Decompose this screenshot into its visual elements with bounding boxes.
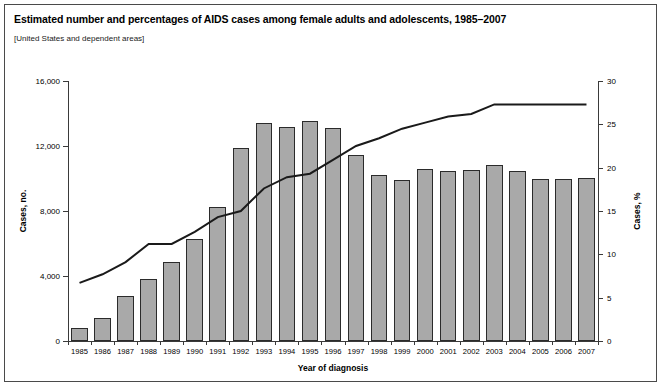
bar-1994: [279, 127, 296, 342]
y-tick-label-left: 4,000: [40, 272, 60, 281]
bar-2005: [532, 179, 549, 342]
x-tick: [391, 341, 392, 345]
x-tick-label-1997: 1997: [348, 347, 365, 356]
x-tick-label-2004: 2004: [509, 347, 526, 356]
x-tick-label-1990: 1990: [186, 347, 203, 356]
x-tick-label-2005: 2005: [532, 347, 549, 356]
x-tick: [229, 341, 230, 345]
x-tick: [68, 341, 69, 345]
x-tick: [598, 341, 599, 345]
figure-container: Estimated number and percentages of AIDS…: [0, 0, 661, 386]
y-tick-label-left: 12,000: [36, 142, 60, 151]
bar-1986: [94, 318, 111, 341]
y-tick-right: [598, 124, 603, 125]
bar-1985: [71, 328, 88, 341]
bar-2001: [440, 171, 457, 341]
y-tick-label-left: 0: [56, 337, 60, 346]
x-tick-label-2002: 2002: [463, 347, 480, 356]
y-tick-right: [598, 81, 603, 82]
y-tick-label-right: 30: [607, 77, 616, 86]
y-tick-label-right: 25: [607, 120, 616, 129]
x-tick: [183, 341, 184, 345]
x-tick: [506, 341, 507, 345]
x-tick-label-1986: 1986: [94, 347, 111, 356]
figure-subtitle: [United States and dependent areas]: [14, 34, 144, 43]
x-tick-label-1988: 1988: [140, 347, 157, 356]
x-tick-label-2001: 2001: [440, 347, 457, 356]
x-axis-line: [68, 341, 598, 342]
bar-1988: [140, 279, 157, 341]
x-tick: [137, 341, 138, 345]
y-tick-label-right: 0: [607, 337, 611, 346]
bar-2000: [417, 169, 434, 341]
x-tick-label-1995: 1995: [302, 347, 319, 356]
bar-1990: [186, 239, 203, 341]
x-tick-label-1987: 1987: [117, 347, 134, 356]
x-tick: [414, 341, 415, 345]
x-tick: [114, 341, 115, 345]
bar-1989: [163, 262, 180, 341]
bar-1997: [348, 155, 365, 341]
x-tick-label-1999: 1999: [394, 347, 411, 356]
bar-2002: [463, 170, 480, 341]
bar-1995: [302, 121, 319, 341]
y-axis-right-title: Cases, %: [630, 81, 644, 341]
bar-2007: [578, 178, 595, 341]
y-axis-left-title-text: Cases, no.: [18, 190, 28, 233]
bar-1987: [117, 296, 134, 341]
bar-2003: [486, 165, 503, 341]
bar-1996: [325, 128, 342, 341]
x-tick-label-1985: 1985: [71, 347, 88, 356]
y-axis-left-title: Cases, no.: [16, 81, 30, 341]
x-tick: [345, 341, 346, 345]
y-tick-label-left: 16,000: [36, 77, 60, 86]
x-tick-label-2003: 2003: [486, 347, 503, 356]
x-tick: [437, 341, 438, 345]
x-tick: [368, 341, 369, 345]
bar-2006: [555, 179, 572, 341]
x-tick-label-2007: 2007: [578, 347, 595, 356]
y-tick-label-right: 20: [607, 163, 616, 172]
x-tick: [483, 341, 484, 345]
bar-1999: [394, 180, 411, 341]
x-tick-label-1993: 1993: [255, 347, 272, 356]
x-tick-label-1989: 1989: [163, 347, 180, 356]
x-tick-label-1998: 1998: [371, 347, 388, 356]
x-tick: [275, 341, 276, 345]
x-tick: [206, 341, 207, 345]
bar-1993: [256, 123, 273, 341]
x-tick: [321, 341, 322, 345]
x-tick-label-1994: 1994: [278, 347, 295, 356]
x-tick: [529, 341, 530, 345]
bar-1998: [371, 175, 388, 341]
x-tick-label-1996: 1996: [325, 347, 342, 356]
y-tick-right: [598, 211, 603, 212]
x-tick: [298, 341, 299, 345]
plot-area: 04,0008,00012,00016,000 051015202530 198…: [68, 81, 598, 341]
page-title: Estimated number and percentages of AIDS…: [14, 13, 506, 25]
x-tick-label-2006: 2006: [555, 347, 572, 356]
y-tick-right: [598, 168, 603, 169]
bar-2004: [509, 171, 526, 341]
bar-series: [68, 81, 598, 341]
x-tick: [252, 341, 253, 345]
x-tick: [160, 341, 161, 345]
x-tick-label-1992: 1992: [232, 347, 249, 356]
x-axis-title: Year of diagnosis: [68, 363, 598, 373]
y-tick-right: [598, 254, 603, 255]
x-tick: [575, 341, 576, 345]
y-tick-label-right: 5: [607, 293, 611, 302]
x-tick: [552, 341, 553, 345]
y-tick-label-right: 15: [607, 207, 616, 216]
x-tick-label-2000: 2000: [417, 347, 434, 356]
y-axis-right-title-text: Cases, %: [632, 192, 642, 229]
bar-1992: [233, 148, 250, 341]
bar-1991: [209, 207, 226, 341]
x-tick-label-1991: 1991: [209, 347, 226, 356]
y-tick-label-right: 10: [607, 250, 616, 259]
x-tick: [91, 341, 92, 345]
x-tick: [460, 341, 461, 345]
y-tick-label-left: 8,000: [40, 207, 60, 216]
y-tick-right: [598, 298, 603, 299]
